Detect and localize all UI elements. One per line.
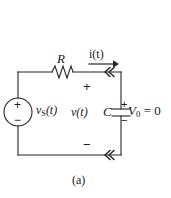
capacitor-plus-sign: + <box>121 99 127 110</box>
capacitor-voltage-label: v(t) <box>71 106 88 118</box>
capacitor-label: C <box>103 105 112 118</box>
source-label-argument: (t) <box>46 103 57 117</box>
current-arrowhead <box>113 60 119 67</box>
source-label: vS(t) <box>36 104 57 118</box>
circuit-schematic-drawing <box>0 0 171 198</box>
circuit-figure: R i(t) vS(t) v(t) C V0 = 0 + − + − + − (… <box>0 0 171 198</box>
loop-minus-sign: − <box>83 138 91 151</box>
resistor-symbol <box>52 66 73 78</box>
source-plus-sign: + <box>14 99 21 111</box>
source-minus-sign: − <box>14 114 21 126</box>
current-label: i(t) <box>89 48 104 60</box>
loop-plus-sign: + <box>83 80 91 93</box>
initial-condition-symbol: V <box>128 103 136 118</box>
figure-caption: (a) <box>72 174 85 186</box>
initial-condition-value: = 0 <box>140 103 160 118</box>
initial-condition-label: V0 = 0 <box>128 104 161 119</box>
capacitor-minus-sign: − <box>121 115 127 126</box>
resistor-label: R <box>57 52 65 65</box>
